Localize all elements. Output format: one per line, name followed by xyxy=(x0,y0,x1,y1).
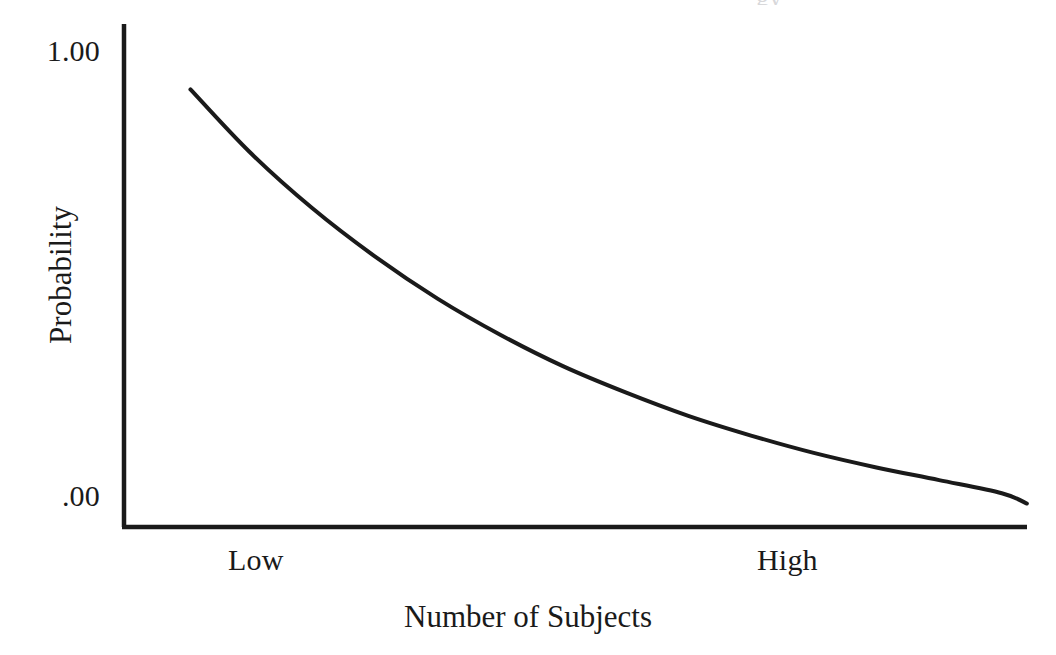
probability-curve xyxy=(190,89,1026,503)
y-axis-title: Probability xyxy=(45,206,76,344)
plot-area xyxy=(0,0,1056,655)
chart-figure: gy 1.00 .00 Low High Probability Number … xyxy=(0,0,1056,655)
y-tick-label-bottom: .00 xyxy=(62,481,100,511)
x-tick-label-high: High xyxy=(757,545,818,575)
x-axis-title: Number of Subjects xyxy=(0,601,1056,632)
x-tick-label-low: Low xyxy=(228,545,284,575)
y-tick-label-top: 1.00 xyxy=(47,36,100,66)
